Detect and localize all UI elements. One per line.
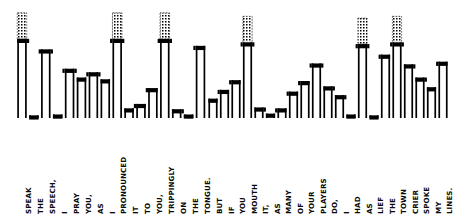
word-pitch-cap bbox=[346, 114, 355, 118]
panel-right bbox=[208, 16, 447, 119]
word-pitch-cap bbox=[148, 88, 158, 92]
word-stem-left bbox=[17, 39, 19, 118]
word-stem-right bbox=[73, 69, 75, 118]
pitch-connector bbox=[333, 86, 335, 90]
pitch-connector bbox=[39, 49, 41, 53]
word-stem-right bbox=[308, 81, 310, 118]
word-pitch-cap bbox=[172, 109, 182, 113]
pitch-connector bbox=[241, 42, 243, 46]
word-stem-left bbox=[312, 63, 314, 118]
word-pitch-cap bbox=[124, 108, 134, 112]
word-pitch-cap bbox=[404, 64, 413, 68]
word-pitch-cap bbox=[323, 86, 332, 90]
word-pitch-cap bbox=[41, 49, 51, 53]
word-stem-right bbox=[168, 39, 170, 118]
pitch-connector bbox=[170, 39, 172, 43]
pitch-connector bbox=[74, 69, 76, 73]
pitch-connector bbox=[264, 107, 266, 111]
word-stem-left bbox=[323, 86, 325, 118]
pitch-extension-dotted bbox=[160, 13, 170, 39]
pitch-connector bbox=[193, 46, 195, 50]
word-stem-left bbox=[101, 79, 103, 118]
word-stem-right bbox=[400, 42, 402, 118]
word-pitch-cap bbox=[160, 39, 170, 43]
word-pitch-cap bbox=[335, 95, 344, 99]
word-pitch-cap bbox=[415, 78, 424, 82]
word-pitch-cap bbox=[65, 69, 75, 73]
word-pitch-cap bbox=[438, 62, 447, 66]
word-stem-right bbox=[25, 39, 27, 118]
word-pitch-cap bbox=[101, 79, 111, 83]
pitch-connector bbox=[425, 78, 427, 82]
word-stem-right bbox=[156, 88, 158, 118]
word-stem-right bbox=[434, 87, 436, 118]
word-pitch-cap bbox=[277, 108, 286, 112]
contour-plot bbox=[0, 0, 467, 221]
pitch-extension-dotted bbox=[17, 13, 27, 39]
word-pitch-cap bbox=[208, 99, 217, 103]
word-stem-left bbox=[358, 44, 360, 118]
word-stem-right bbox=[365, 44, 367, 118]
pitch-extension-dotted bbox=[243, 16, 252, 42]
word-stem-right bbox=[411, 64, 413, 118]
word-pitch-cap bbox=[220, 90, 229, 94]
word-pitch-cap bbox=[369, 115, 378, 119]
word-stem-left bbox=[196, 46, 198, 118]
word-stem-left bbox=[427, 87, 429, 118]
word-stem-left bbox=[381, 55, 383, 118]
word-stem-right bbox=[108, 79, 110, 118]
word-pitch-cap bbox=[254, 107, 263, 111]
word-stem-right bbox=[388, 55, 390, 118]
word-stem-left bbox=[220, 90, 222, 118]
pitch-connector bbox=[181, 109, 183, 113]
word-stem-left bbox=[392, 42, 394, 118]
pitch-connector bbox=[62, 69, 64, 73]
word-pitch-cap bbox=[196, 46, 206, 50]
pitch-connector bbox=[275, 108, 277, 112]
word-stem-left bbox=[438, 62, 440, 118]
word-stem-right bbox=[120, 39, 122, 118]
pitch-connector bbox=[379, 55, 381, 59]
pitch-extension-dotted bbox=[112, 13, 122, 39]
word-pitch-cap bbox=[231, 80, 240, 84]
word-stem-left bbox=[41, 49, 43, 118]
word-stem-right bbox=[331, 86, 333, 118]
pitch-extension-dotted bbox=[358, 18, 367, 44]
pitch-connector bbox=[158, 39, 160, 43]
word-pitch-cap bbox=[53, 114, 63, 118]
word-stem-left bbox=[89, 72, 91, 118]
pitch-connector bbox=[51, 49, 53, 53]
panel-left bbox=[17, 13, 205, 120]
word-stem-right bbox=[49, 49, 51, 118]
word-stem-left bbox=[160, 39, 162, 118]
word-stem-left bbox=[415, 78, 417, 118]
word-pitch-cap bbox=[300, 81, 309, 85]
pitch-connector bbox=[218, 90, 220, 94]
word-pitch-cap bbox=[381, 55, 390, 59]
word-pitch-cap bbox=[312, 63, 321, 67]
pitch-connector bbox=[390, 42, 392, 46]
word-stem-right bbox=[446, 62, 448, 118]
word-stem-right bbox=[239, 80, 241, 118]
word-pitch-cap bbox=[29, 115, 39, 119]
word-pitch-cap bbox=[358, 44, 367, 48]
word-pitch-cap bbox=[17, 39, 27, 43]
word-pitch-cap bbox=[89, 72, 99, 76]
pitch-connector bbox=[321, 63, 323, 67]
word-pitch-cap bbox=[392, 42, 401, 46]
word-stem-left bbox=[65, 69, 67, 118]
word-pitch-cap bbox=[266, 114, 275, 118]
pitch-connector bbox=[436, 62, 438, 66]
pitch-connector bbox=[122, 39, 124, 43]
word-pitch-cap bbox=[112, 39, 122, 43]
pitch-connector bbox=[344, 95, 346, 99]
pitch-connector bbox=[367, 44, 369, 48]
word-stem-left bbox=[112, 39, 114, 118]
word-pitch-cap bbox=[289, 92, 298, 96]
word-stem-right bbox=[204, 46, 206, 118]
pitch-connector bbox=[356, 44, 358, 48]
pitch-connector bbox=[402, 42, 404, 46]
word-stem-right bbox=[250, 42, 252, 118]
pitch-connector bbox=[27, 39, 29, 43]
pitch-connector bbox=[86, 72, 88, 76]
